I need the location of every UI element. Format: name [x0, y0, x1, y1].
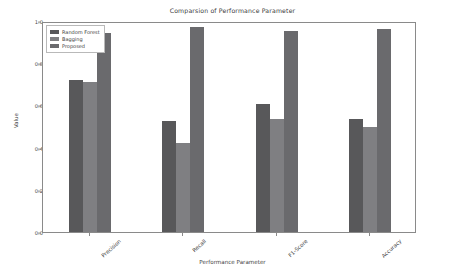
bar [97, 33, 111, 232]
bar [377, 29, 391, 232]
y-axis-tick-label: 0.2 [3, 188, 43, 194]
legend-item: Proposed [50, 43, 100, 50]
bar [270, 119, 284, 232]
bar-group [69, 23, 111, 232]
bar [190, 27, 204, 232]
bar [69, 80, 83, 232]
y-axis-tick-mark [38, 233, 41, 234]
y-axis-tick-mark [38, 148, 41, 149]
y-axis-tick-mark [38, 106, 41, 107]
y-axis-tick-label: 0.0 [3, 230, 43, 236]
legend-item: Random Forest [50, 29, 100, 36]
bar [256, 104, 270, 232]
chart-legend: Random ForestBaggingProposed [46, 25, 105, 53]
y-axis-tick-mark [38, 64, 41, 65]
x-axis-label: Performance Parameter [0, 259, 465, 265]
y-axis-tick-mark [38, 22, 41, 23]
bar-chart-figure: Comparsion of Performance Parameter Valu… [0, 0, 465, 280]
legend-item: Bagging [50, 36, 100, 43]
x-axis-tick-label: Accuracy [381, 238, 403, 259]
legend-label: Bagging [62, 36, 83, 43]
legend-label: Random Forest [62, 29, 100, 36]
bar [162, 121, 176, 232]
plot-area [42, 22, 416, 233]
bar-group [256, 23, 298, 232]
bar-group [349, 23, 391, 232]
bar [349, 119, 363, 232]
bar [83, 82, 97, 232]
x-axis-tick-label: Precision [100, 238, 122, 259]
y-axis-label: Value [13, 113, 19, 128]
y-axis-tick-label: 0.8 [3, 61, 43, 67]
bar [176, 143, 190, 232]
bar-group [162, 23, 204, 232]
bar [363, 127, 377, 233]
legend-color-swatch [50, 37, 59, 41]
y-axis-tick-label: 0.4 [3, 146, 43, 152]
chart-title: Comparsion of Performance Parameter [0, 7, 465, 14]
y-axis-tick-label: 0.6 [3, 103, 43, 109]
legend-color-swatch [50, 30, 59, 34]
y-axis-tick-mark [38, 190, 41, 191]
bar [284, 31, 298, 233]
x-axis-tick-label: Recall [191, 238, 207, 253]
x-axis-tick-label: F1-Score [287, 238, 309, 258]
legend-color-swatch [50, 44, 59, 48]
legend-label: Proposed [62, 43, 85, 50]
y-axis-tick-label: 1.0 [3, 19, 43, 25]
